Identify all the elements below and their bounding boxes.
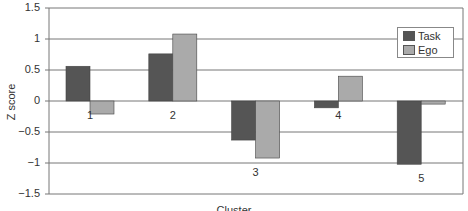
category-label: 2 — [163, 109, 183, 121]
y-tick-label: −1 — [0, 156, 40, 168]
legend: Task Ego — [397, 27, 454, 58]
legend-label-ego: Ego — [418, 44, 438, 56]
bar-task-1 — [66, 66, 90, 101]
y-tick-label: −1.5 — [0, 187, 40, 199]
task-swatch-icon — [403, 31, 415, 41]
category-label: 1 — [80, 109, 100, 121]
category-label: 4 — [328, 109, 348, 121]
y-tick-label: 0.5 — [0, 63, 40, 75]
legend-item-task: Task — [398, 29, 453, 42]
bar-task-5 — [397, 101, 421, 164]
bar-ego-5 — [421, 101, 445, 104]
bar-task-4 — [314, 101, 338, 108]
y-tick-label: 0 — [0, 94, 40, 106]
ego-swatch-icon — [403, 45, 415, 55]
y-tick-label: 1.5 — [0, 1, 40, 13]
legend-label-task: Task — [418, 30, 441, 42]
bar-ego-4 — [338, 76, 362, 101]
y-tick-label: −0.5 — [0, 125, 40, 137]
category-label: 3 — [246, 166, 266, 178]
bar-task-3 — [232, 101, 256, 140]
x-axis-label: Cluster — [0, 204, 468, 211]
bar-task-2 — [149, 54, 173, 101]
bar-ego-2 — [173, 34, 197, 101]
bar-ego-3 — [256, 101, 280, 158]
y-tick-label: 1 — [0, 32, 40, 44]
category-label: 5 — [411, 172, 431, 184]
legend-item-ego: Ego — [398, 43, 453, 56]
